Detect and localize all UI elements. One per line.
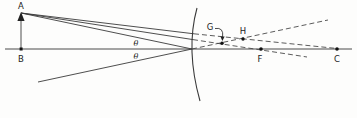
label-object-tip: A	[18, 1, 24, 11]
label-object-base: B	[18, 54, 24, 64]
reflected-ray	[38, 49, 192, 82]
label-focal-point: F	[258, 54, 263, 64]
g-leader-arrow	[215, 28, 223, 37]
g-leader-arrowhead	[220, 36, 224, 41]
label-angle-reflection: θ	[134, 52, 139, 61]
mirror-arc	[192, 8, 200, 101]
center-of-curvature-dot	[335, 47, 339, 51]
incident-ray-to-vertex	[21, 13, 192, 49]
label-point-h: H	[240, 26, 246, 36]
focal-point-dot	[259, 47, 263, 51]
object-base-dot	[20, 48, 23, 51]
label-angle-incidence: θ	[134, 39, 139, 48]
point-h-dot	[241, 37, 244, 40]
extension-toward-focus	[193, 40, 307, 57]
label-center-of-curvature: C	[334, 54, 340, 64]
extension-toward-center	[194, 34, 337, 49]
optics-ray-diagram: A B G H F C θ θ	[0, 0, 357, 118]
incident-ray-toward-f	[21, 13, 193, 40]
label-point-g: G	[207, 22, 214, 32]
point-g-dot	[220, 42, 223, 45]
incident-ray-toward-c	[21, 13, 194, 34]
diagram-canvas: A B G H F C θ θ	[0, 0, 357, 118]
